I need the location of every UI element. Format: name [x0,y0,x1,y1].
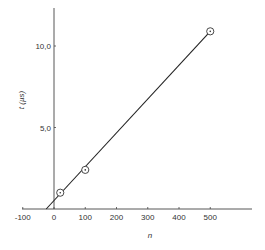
fit-line [46,31,210,209]
center-dot-icon [209,31,211,33]
x-tick-label: 400 [172,213,186,222]
center-dot-icon [59,192,61,194]
x-tick-label: -100 [15,213,32,222]
data-point [207,28,214,35]
x-tick-label: 100 [79,213,93,222]
y-tick-label: 5,0 [40,124,52,133]
x-tick-label: 500 [204,213,218,222]
x-tick-label: 300 [141,213,155,222]
regression-line [46,31,210,209]
axes [22,8,252,209]
y-tick-label: 10,0 [35,42,51,51]
y-axis-label: t (µs) [17,90,26,109]
x-axis-label: n [148,231,153,240]
tick-marks: -10001002003004005005,010,0 [15,42,218,222]
x-tick-label: 200 [110,213,124,222]
data-point [82,166,89,173]
data-point [57,189,64,196]
x-tick-label: 0 [52,213,57,222]
chart-canvas: -10001002003004005005,010,0 n t (µs) [0,0,265,250]
center-dot-icon [84,169,86,171]
